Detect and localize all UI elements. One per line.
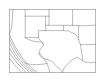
map-figure: [0, 0, 105, 82]
map-svg: [0, 0, 105, 82]
